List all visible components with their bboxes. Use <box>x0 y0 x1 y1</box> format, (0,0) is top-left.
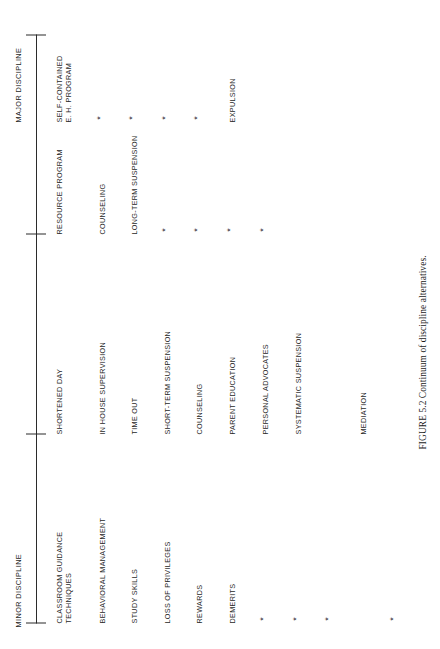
axis-tick-4 <box>26 34 46 35</box>
cell-r1-c2: IN HOUSE SUPERVISION <box>98 341 107 434</box>
cell-r5-c2: PARENT EDUCATION <box>228 356 237 434</box>
column-header-4-line-1: SELF-CONTAINED <box>55 55 64 122</box>
column-header-3: RESOURCE PROGRAM <box>55 149 64 234</box>
mark-r6-c3: * <box>259 225 268 234</box>
figure-scene: MINOR DISCIPLINE MAJOR DISCIPLINE CLASSR… <box>0 0 440 649</box>
cell-r5-c4: EXPULSION <box>228 78 237 122</box>
cell-r5-c1: DEMERITS <box>228 583 237 623</box>
mark-r4-c3: * <box>193 225 202 234</box>
mark-r9-c1: * <box>389 614 398 623</box>
column-header-2: SHORTENED DAY <box>55 368 64 434</box>
axis-tick-3 <box>26 233 46 234</box>
column-header-1-line-1: CLASSROOM GUIDANCE <box>55 531 64 623</box>
axis-tick-2 <box>26 433 46 434</box>
cell-r7-c2: SYSTEMATIC SUSPENSION <box>294 332 303 434</box>
cell-r4-c1: REWARDS <box>195 584 204 623</box>
cell-r2-c2: TIME OUT <box>130 397 139 434</box>
axis-label-minor: MINOR DISCIPLINE <box>14 553 23 627</box>
column-header-1-line-2: TECHNIQUES <box>64 531 73 623</box>
column-header-1: CLASSROOM GUIDANCE TECHNIQUES <box>55 531 74 623</box>
axis-tick-1 <box>26 622 46 623</box>
mark-r6-c1: * <box>259 614 268 623</box>
axis-baseline <box>36 34 37 623</box>
figure-canvas: MINOR DISCIPLINE MAJOR DISCIPLINE CLASSR… <box>0 0 440 649</box>
mark-r3-c4: * <box>161 113 170 122</box>
mark-r4-c4: * <box>193 113 202 122</box>
mark-r2-c4: * <box>128 113 137 122</box>
column-header-4: SELF-CONTAINED E. H. PROGRAM <box>55 55 74 122</box>
cell-r1-c1: BEHAVIORAL MANAGEMENT <box>98 517 107 623</box>
cell-r6-c2: PERSONAL ADVOCATES <box>261 344 270 434</box>
column-header-3-line-1: RESOURCE PROGRAM <box>55 149 64 234</box>
mark-r5-c3: * <box>226 225 235 234</box>
mark-r3-c3: * <box>161 225 170 234</box>
cell-r3-c2: SHORT-TERM SUSPENSION <box>163 330 172 434</box>
figure-caption: FIGURE 5.2 Continuum of discipline alter… <box>418 255 428 449</box>
cell-r8-c2: MEDIATION <box>359 392 368 434</box>
column-header-4-line-2: E. H. PROGRAM <box>64 55 73 122</box>
mark-r1-c4: * <box>96 113 105 122</box>
axis-label-major: MAJOR DISCIPLINE <box>14 47 23 122</box>
cell-r1-c3: COUNSELING <box>98 183 107 234</box>
cell-r4-c2: COUNSELING <box>195 383 204 434</box>
cell-r3-c1: LOSS OF PRIVILEGES <box>163 541 172 623</box>
cell-r2-c1: STUDY SKILLS <box>130 568 139 623</box>
mark-r7-c1: * <box>292 614 301 623</box>
cell-r2-c3: LONG-TERM SUSPENSION <box>130 135 139 234</box>
mark-r8-c1: * <box>324 614 333 623</box>
column-header-2-line-1: SHORTENED DAY <box>55 368 64 434</box>
